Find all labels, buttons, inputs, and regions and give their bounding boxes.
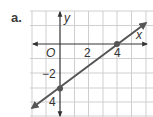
origin-label: O	[46, 46, 55, 60]
point-x-intercept	[114, 41, 120, 47]
x-tick-label-4: 4	[114, 46, 121, 60]
point-y-intercept	[57, 86, 63, 92]
y-axis-label: y	[63, 11, 71, 25]
x-tick-label-2: 2	[84, 46, 91, 60]
coordinate-graph: y x O 2 4 −2 4	[0, 0, 153, 117]
y-tick-label-neg2: −2	[42, 67, 56, 81]
y-tick-label-neg4: 4	[49, 95, 56, 109]
